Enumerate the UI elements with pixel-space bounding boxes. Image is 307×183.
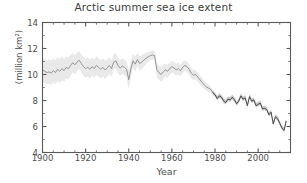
- plot-canvas: [0, 0, 307, 183]
- chart-figure: Arctic summer sea ice extent (million km…: [0, 0, 307, 183]
- axes-frame: [43, 23, 291, 153]
- axis-ticks: [43, 23, 291, 153]
- uncertainty-band: [43, 50, 287, 132]
